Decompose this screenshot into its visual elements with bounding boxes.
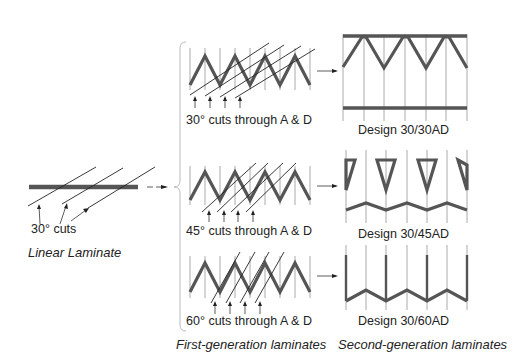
arrowhead-icon <box>332 69 338 73</box>
arrowhead-icon <box>332 274 338 278</box>
design-label-30-60: Design 30/60AD <box>358 314 449 328</box>
arrowhead-icon <box>83 208 89 213</box>
arrowhead-icon <box>213 301 262 306</box>
arrowhead-icon <box>37 204 41 209</box>
second-generation-title: Second-generation laminates <box>338 337 508 352</box>
linear-cut-label: 30° cuts <box>31 222 76 236</box>
design-30-45ad: Design 30/45AD <box>346 150 467 241</box>
pointer-arrow <box>71 210 86 221</box>
first-generation-title: First-generation laminates <box>176 337 327 352</box>
cut-label-30: 30° cuts through A & D <box>186 113 312 127</box>
arrowhead-icon <box>161 185 168 189</box>
design-label-30-30: Design 30/30AD <box>358 123 449 137</box>
arrowhead-icon <box>193 96 242 101</box>
first-gen-row-30: 30° cuts through A & D <box>186 43 338 127</box>
arrowhead-icon <box>332 184 338 188</box>
triangle-insert <box>458 160 467 190</box>
linear-laminate-title: Linear Laminate <box>28 245 121 260</box>
laminate-design-diagram: 30° cuts Linear Laminate 30° cuts throug… <box>0 0 523 364</box>
grouping-brace <box>174 42 186 331</box>
triangle-insert <box>346 160 355 190</box>
arrowhead-icon <box>64 203 68 209</box>
first-gen-row-60: 60° cuts through A & D First-generation … <box>176 252 338 352</box>
linear-laminate: 30° cuts Linear Laminate <box>28 167 168 260</box>
cut-label-60: 60° cuts through A & D <box>186 314 312 328</box>
design-30-60ad: Design 30/60AD Second-generation laminat… <box>338 245 508 352</box>
design-label-30-45: Design 30/45AD <box>358 227 449 241</box>
cut-label-45: 45° cuts through A & D <box>186 224 312 238</box>
design-30-30ad: Design 30/30AD <box>343 34 467 137</box>
first-gen-row-45: 45° cuts through A & D <box>186 163 338 238</box>
